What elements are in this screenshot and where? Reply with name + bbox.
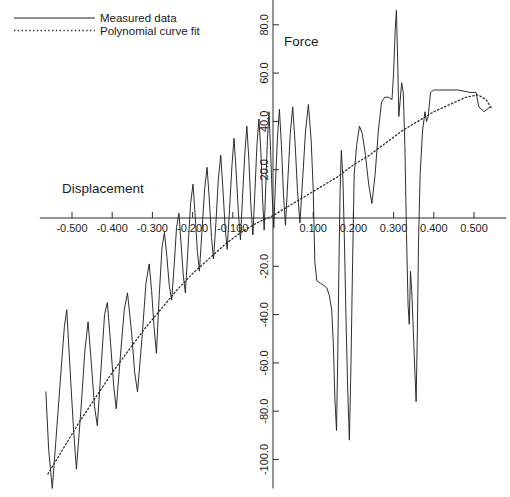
x-axis-title: Displacement [62, 181, 144, 196]
y-axis-tick-label: -80.0 [258, 399, 270, 424]
x-axis-tick-label: 0.300 [380, 222, 408, 234]
y-axis-tick-label: -40.0 [258, 302, 270, 327]
x-axis-tick-label: 0.400 [420, 222, 448, 234]
x-axis-tick-label: -0.400 [97, 222, 128, 234]
x-axis-tick-label: -0.500 [56, 222, 87, 234]
y-axis-tick-label: 20.0 [258, 159, 270, 180]
y-axis-title: Force [284, 34, 319, 49]
y-axis-tick-label: 80.0 [258, 14, 270, 35]
x-axis-tick-label: -0.200 [177, 222, 208, 234]
x-axis-tick-label: -0.100 [217, 222, 248, 234]
x-axis-tick-label: 0.100 [299, 222, 327, 234]
chart-canvas: Measured dataPolynomial curve fit -0.500… [0, 0, 510, 497]
legend: Measured dataPolynomial curve fit [14, 12, 201, 37]
axes: -0.500-0.400-0.300-0.200-0.1000.1000.200… [40, 0, 506, 488]
force-displacement-chart: Measured dataPolynomial curve fit -0.500… [0, 0, 510, 497]
legend-item-label: Polynomial curve fit [100, 25, 201, 37]
y-axis-tick-label: -100.0 [258, 444, 270, 475]
x-axis-tick-label: 0.500 [460, 222, 488, 234]
x-axis-tick-label: -0.300 [137, 222, 168, 234]
y-axis-tick-label: 60.0 [258, 62, 270, 83]
y-axis-tick-label: -60.0 [258, 350, 270, 375]
legend-item-label: Measured data [100, 12, 177, 24]
y-axis-tick-label: -20.0 [258, 254, 270, 279]
